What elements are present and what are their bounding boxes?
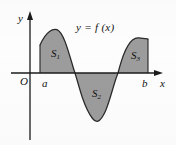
x-axis-label: x <box>160 78 165 89</box>
region-label-s3: S3 <box>131 50 140 61</box>
region-label-s3-base: S <box>131 49 137 61</box>
tick-label-b: b <box>142 78 148 89</box>
x-axis-arrow-icon <box>154 70 163 76</box>
function-label: y = f (x) <box>76 22 115 33</box>
origin-label: O <box>20 76 28 87</box>
region-label-s1-subscript: 1 <box>57 53 61 61</box>
region-label-s1: S1 <box>51 48 60 59</box>
region-label-s1-base: S <box>51 47 57 59</box>
figure-container: y x O a b y = f (x) S1 S2 S3 <box>0 0 176 145</box>
y-axis-label: y <box>18 13 23 24</box>
region-label-s2-base: S <box>92 87 98 99</box>
region-label-s2-subscript: 2 <box>98 93 102 101</box>
y-axis-arrow-icon <box>27 11 33 20</box>
tick-label-a: a <box>42 78 48 89</box>
region-label-s2: S2 <box>92 88 101 99</box>
region-label-s3-subscript: 3 <box>137 55 141 63</box>
